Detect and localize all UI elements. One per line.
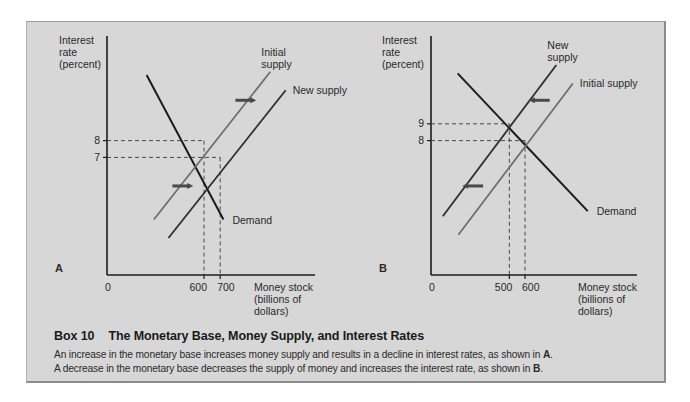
caption-end: .: [540, 363, 543, 374]
figure-title: Box 10The Monetary Base, Money Supply, a…: [54, 329, 664, 343]
box-label: Box 10: [54, 329, 94, 343]
series-label-demand: Demand: [232, 214, 272, 226]
panel-letter: B: [379, 262, 387, 274]
origin-label: 0: [429, 281, 435, 293]
y-tick-label: 8: [94, 134, 100, 146]
x-axis-label: dollars): [254, 305, 288, 317]
caption-end: .: [550, 349, 553, 360]
y-axis-label: Interest: [382, 34, 417, 46]
series-label: Initial supply: [580, 77, 639, 89]
series-demand-line: [458, 73, 588, 211]
panel-letter: A: [55, 262, 63, 274]
x-tick-label: 600: [522, 281, 540, 293]
y-axis-label: Interest: [59, 34, 94, 46]
title-text: The Monetary Base, Money Supply, and Int…: [108, 329, 424, 343]
y-axis-label: (percent): [59, 58, 101, 70]
y-axis-label: (percent): [382, 58, 424, 70]
y-tick-label: 9: [418, 117, 424, 129]
x-tick-label: 700: [217, 281, 235, 293]
x-axis-label: (billions of: [578, 293, 625, 305]
series-label: Initial: [261, 46, 286, 58]
figure-caption: Box 10The Monetary Base, Money Supply, a…: [54, 329, 664, 376]
x-tick-label: 500: [495, 281, 513, 293]
y-axis-label: rate: [382, 46, 400, 58]
x-axis-label: dollars): [578, 305, 612, 317]
panel-b: Interestrate(percent)Money stock(billion…: [379, 34, 638, 317]
caption-line-b: A decrease in the monetary base decrease…: [54, 362, 664, 376]
x-axis-label: (billions of: [254, 293, 301, 305]
caption-line-a: An increase in the monetary base increas…: [54, 348, 664, 362]
x-tick-label: 600: [189, 281, 207, 293]
series-label: supply: [547, 51, 578, 63]
series-label: New supply: [293, 84, 348, 96]
y-axis-label: rate: [59, 46, 77, 58]
series-label: New: [547, 39, 568, 51]
series-label-demand: Demand: [597, 205, 637, 217]
caption-text: An increase in the monetary base increas…: [54, 349, 543, 360]
caption-text: A decrease in the monetary base decrease…: [54, 363, 533, 374]
x-axis-label: Money stock: [578, 281, 638, 293]
y-tick-label: 8: [418, 134, 424, 146]
series-initial-supply-line: [458, 83, 572, 234]
series-label: supply: [261, 58, 292, 70]
panel-a: Interestrate(percent)Money stock(billion…: [55, 34, 348, 317]
x-axis-label: Money stock: [254, 281, 314, 293]
origin-label: 0: [105, 281, 111, 293]
y-tick-label: 7: [94, 151, 100, 163]
